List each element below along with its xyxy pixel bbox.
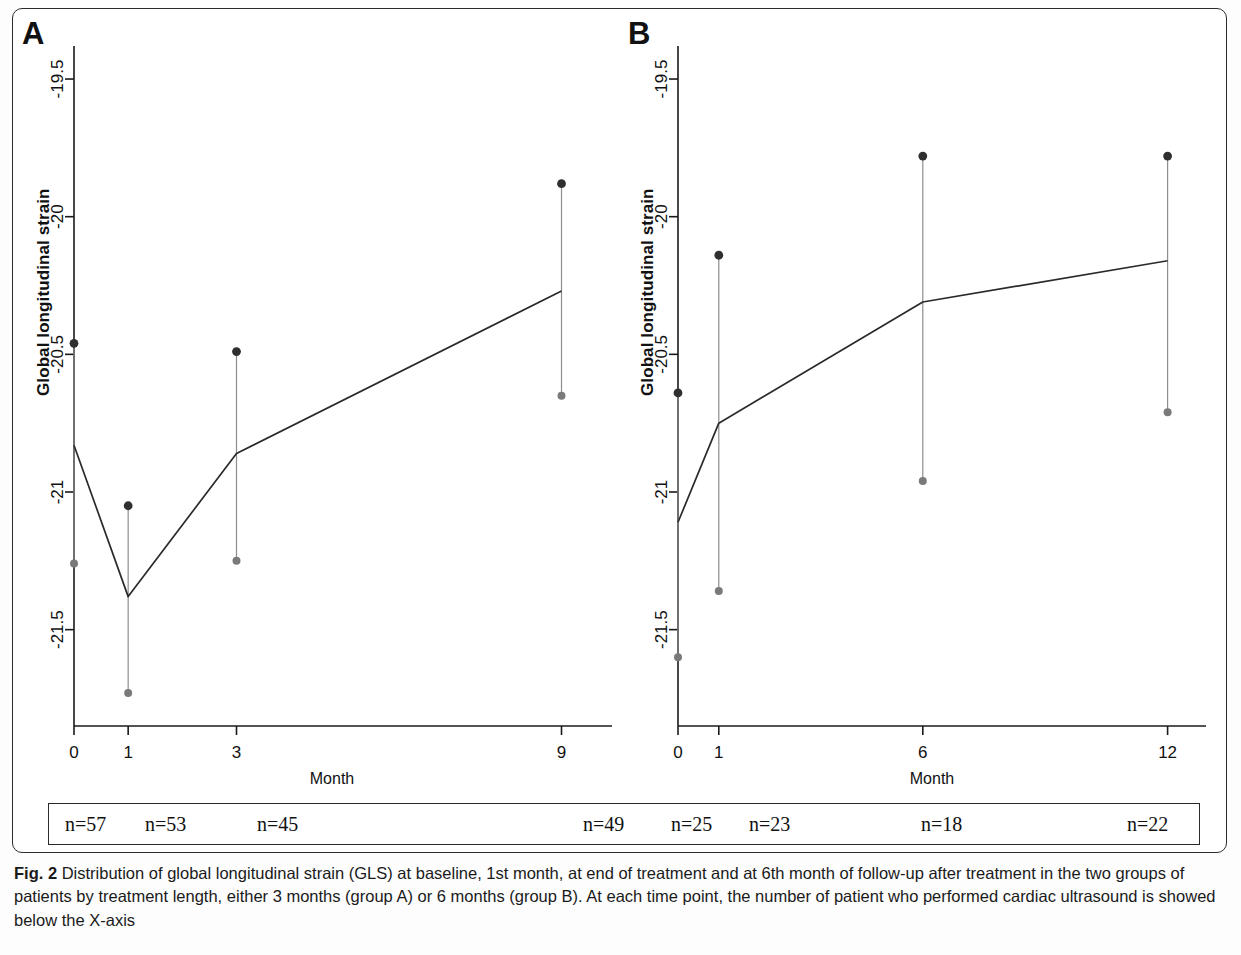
lower-bound-marker — [233, 557, 241, 565]
lower-bound-marker — [674, 653, 682, 661]
panel-a-y-axis-label: Global longitudinal strain — [34, 188, 54, 396]
x-tick-label: 3 — [232, 743, 241, 762]
lower-bound-marker — [70, 560, 78, 568]
upper-bound-marker — [674, 388, 683, 397]
y-tick-label: -21 — [49, 480, 68, 505]
count-a-3: n=45 — [257, 813, 298, 836]
x-tick-label: 1 — [714, 743, 723, 762]
lower-bound-marker — [1164, 408, 1172, 416]
upper-bound-marker — [124, 501, 133, 510]
figure-container: A Global longitudinal strain -19.5-20-20… — [0, 0, 1241, 955]
panel-b-x-axis-label: Month — [652, 770, 1212, 788]
panel-b-plot: -19.5-20-20.5-21-21.501612 — [622, 8, 1227, 798]
count-a-1: n=53 — [145, 813, 186, 836]
lower-bound-marker — [919, 477, 927, 485]
x-tick-label: 6 — [918, 743, 927, 762]
upper-bound-marker — [1163, 152, 1172, 161]
y-tick-label: -19.5 — [49, 60, 68, 99]
panel-a-plot: -19.5-20-20.5-21-21.50139 — [12, 8, 622, 798]
y-tick-label: -21 — [653, 480, 672, 505]
count-b-1: n=23 — [749, 813, 790, 836]
x-tick-label: 12 — [1158, 743, 1177, 762]
x-tick-label: 0 — [673, 743, 682, 762]
caption-body: Distribution of global longitudinal stra… — [14, 864, 1216, 929]
chart-panel-b: B Global longitudinal strain -19.5-20-20… — [622, 8, 1227, 808]
lower-bound-marker — [124, 689, 132, 697]
upper-bound-marker — [70, 339, 79, 348]
chart-panel-a: A Global longitudinal strain -19.5-20-20… — [12, 8, 622, 808]
upper-bound-marker — [232, 347, 241, 356]
mean-trend-line — [74, 291, 562, 597]
count-a-0: n=57 — [65, 813, 106, 836]
y-tick-label: -21.5 — [653, 610, 672, 649]
panel-a-letter: A — [22, 18, 44, 49]
figure-caption: Fig. 2 Distribution of global longitudin… — [14, 862, 1226, 932]
x-tick-label: 0 — [69, 743, 78, 762]
sample-size-box: n=57 n=53 n=45 n=49 n=25 n=23 n=18 n=22 — [48, 803, 1200, 845]
count-b-0: n=25 — [671, 813, 712, 836]
upper-bound-marker — [714, 251, 723, 260]
upper-bound-marker — [557, 179, 566, 188]
caption-label: Fig. 2 — [14, 864, 57, 882]
lower-bound-marker — [715, 587, 723, 595]
y-tick-label: -19.5 — [653, 60, 672, 99]
panel-b-y-axis-label: Global longitudinal strain — [638, 188, 658, 396]
count-b-6: n=18 — [921, 813, 962, 836]
x-tick-label: 1 — [123, 743, 132, 762]
panel-a-x-axis-label: Month — [52, 770, 612, 788]
count-a-9: n=49 — [583, 813, 624, 836]
upper-bound-marker — [918, 152, 927, 161]
x-tick-label: 9 — [557, 743, 566, 762]
lower-bound-marker — [558, 392, 566, 400]
count-b-12: n=22 — [1127, 813, 1168, 836]
panel-b-letter: B — [628, 18, 650, 49]
y-tick-label: -21.5 — [49, 610, 68, 649]
